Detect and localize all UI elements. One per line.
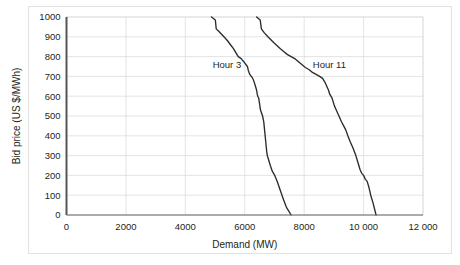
x-tick-label-6000: 6000	[234, 221, 255, 232]
x-tick-label-2000: 2000	[115, 221, 136, 232]
chart-figure: 01002003004005006007008009001000 0200040…	[0, 0, 460, 265]
y-axis-title: Bid price (US $/MWh)	[11, 68, 22, 165]
y-tick-label-0: 0	[55, 209, 60, 220]
x-tick-label-4000: 4000	[175, 221, 196, 232]
y-tick-label-200: 200	[45, 170, 61, 181]
y-tick-label-100: 100	[45, 190, 61, 201]
x-axis-title: Demand (MW)	[212, 239, 277, 250]
y-tick-label-700: 700	[45, 71, 61, 82]
x-tick-label-0: 0	[64, 221, 69, 232]
bid-price-demand-chart: 01002003004005006007008009001000 0200040…	[0, 0, 460, 265]
x-tick-label-8000: 8000	[294, 221, 315, 232]
x-tick-label-12000: 12 000	[408, 221, 437, 232]
y-tick-label-800: 800	[45, 51, 61, 62]
y-tick-label-900: 900	[45, 31, 61, 42]
y-tick-label-1000: 1000	[39, 11, 60, 22]
y-tick-label-300: 300	[45, 150, 61, 161]
y-tick-label-400: 400	[45, 130, 61, 141]
series-annotations: Hour 3Hour 11	[213, 59, 346, 70]
hour-11-label: Hour 11	[313, 59, 346, 70]
x-tick-label-10000: 10 000	[349, 221, 378, 232]
y-tick-label-500: 500	[45, 110, 61, 121]
y-axis-tick-labels: 01002003004005006007008009001000	[39, 11, 60, 220]
hour-3-label: Hour 3	[213, 59, 242, 70]
y-tick-label-600: 600	[45, 91, 61, 102]
x-axis-tick-labels: 0200040006000800010 00012 000	[64, 221, 438, 232]
